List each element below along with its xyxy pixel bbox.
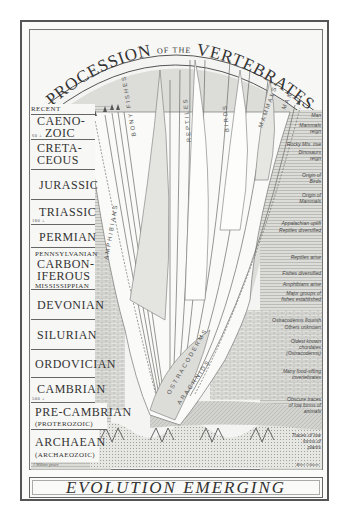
note-fishes-diversified: Fishes diversified: [282, 270, 321, 276]
note-man: Man: [311, 112, 321, 118]
era-triassic: TRIASSIC 180 ±: [31, 200, 95, 225]
note-reptiles-arise: Reptiles arise: [291, 254, 321, 260]
note-traces-plants: Traces of low forms of plants: [291, 432, 321, 450]
note-oldest-chordates: Oldest known chordates (Ostracoderms): [275, 338, 321, 356]
era-ordovician: ORDOVICIAN: [31, 350, 95, 378]
note-mammals-reign: Mammals reign: [299, 122, 321, 134]
era-permian: PERMIAN: [31, 225, 95, 248]
note-amphibians-arise: Amphibians arise: [283, 281, 321, 287]
era-archaean: ARCHAEAN (ARCHAEOZOIC): [31, 430, 99, 462]
title-part2: OF THE: [157, 45, 192, 55]
era-devonian: DEVONIAN: [31, 290, 95, 320]
note-others-unknown: Others unknown: [285, 324, 321, 330]
note-food-sifting: Many food-sifting invertebrates: [275, 368, 321, 380]
note-appalachian: Appalachian uplift: [282, 220, 321, 226]
era-precambrian: PRE-CAMBRIAN (PROTEROZOIC): [31, 403, 107, 430]
note-obscure-traces: Obscure traces of low forms of animals: [287, 396, 321, 414]
note-rocky-mts: Rocky Mts. rise: [287, 141, 321, 147]
note-reptiles-diversified: Reptiles diversified: [279, 227, 321, 233]
note-origin-mammals: Origin of Mammals: [297, 192, 321, 204]
caption-text: EVOLUTION EMERGING: [66, 478, 286, 498]
era-cretaceous: CRETA- CEOUS: [31, 140, 95, 170]
era-silurian: SILURIAN: [31, 320, 95, 350]
credit-left: # Million years: [33, 462, 59, 467]
era-jurassic: JURASSIC: [31, 170, 95, 200]
note-dinosaurs-reign: Dinosaurs reign: [295, 149, 321, 161]
era-carboniferous: PENNSYLVANIAN CARBON- IFEROUS MISSISSIPP…: [31, 248, 95, 290]
note-ostracoderms-flourish: Ostracoderms flourish: [272, 317, 321, 323]
note-origin-birds: Origin of Birds: [299, 172, 321, 184]
credit-right: After Osborn: [296, 462, 319, 467]
caption-box: EVOLUTION EMERGING: [29, 477, 323, 498]
era-cambrian: CAMBRIAN 500 ±: [31, 378, 95, 403]
note-major-groups-fishes: Major groups of fishes established: [281, 290, 321, 302]
era-caenozoic: CAENO- ZOIC 60 ±: [31, 115, 95, 140]
